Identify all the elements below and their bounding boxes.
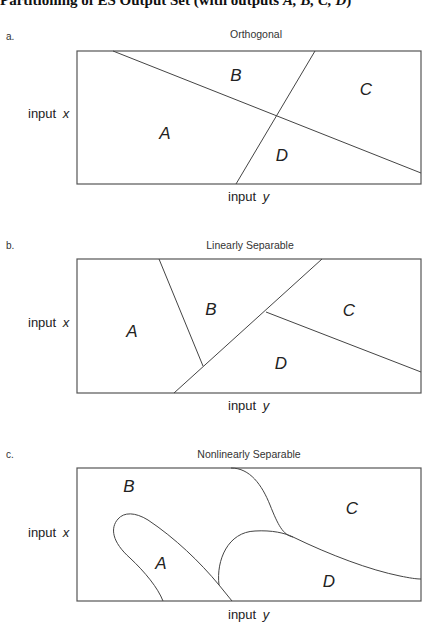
decision-boundary bbox=[174, 259, 322, 393]
partition-diagram: a.OrthogonalABCDinput xinput yb.Linearly… bbox=[0, 0, 428, 637]
region-label-c: C bbox=[360, 80, 373, 99]
region-label-b: B bbox=[230, 66, 241, 85]
panel-title: Orthogonal bbox=[230, 28, 282, 40]
panel-a: a.OrthogonalABCDinput xinput y bbox=[6, 28, 421, 204]
panel-b: b.Linearly SeparableABCDinput xinput y bbox=[6, 239, 421, 413]
decision-boundary bbox=[114, 514, 232, 601]
region-label-c: C bbox=[346, 499, 359, 518]
panel-title: Linearly Separable bbox=[206, 239, 294, 251]
panel-tag: a. bbox=[6, 31, 14, 42]
panel-tag: c. bbox=[6, 449, 14, 460]
axis-label-y: input y bbox=[228, 189, 271, 204]
panel-tag: b. bbox=[6, 240, 14, 251]
decision-boundary bbox=[113, 51, 421, 173]
axis-label-x: input x bbox=[28, 525, 70, 540]
axis-label-y: input y bbox=[228, 607, 271, 622]
decision-boundary bbox=[219, 531, 293, 585]
region-label-b: B bbox=[123, 477, 134, 496]
decision-boundary bbox=[266, 312, 421, 372]
region-label-a: A bbox=[125, 322, 137, 341]
region-label-a: A bbox=[158, 124, 170, 143]
region-label-d: D bbox=[276, 146, 288, 165]
axis-label-x: input x bbox=[28, 315, 70, 330]
axis-label-x: input x bbox=[28, 106, 70, 121]
decision-boundary bbox=[231, 468, 293, 537]
decision-boundary bbox=[293, 537, 421, 579]
panel-c: c.Nonlinearly SeparableABCDinput xinput … bbox=[6, 448, 421, 622]
panel-title: Nonlinearly Separable bbox=[197, 448, 300, 460]
region-label-a: A bbox=[154, 554, 166, 573]
region-label-c: C bbox=[343, 301, 356, 320]
axis-label-y: input y bbox=[228, 398, 271, 413]
region-label-d: D bbox=[323, 572, 335, 591]
region-label-b: B bbox=[205, 300, 216, 319]
decision-boundary bbox=[159, 259, 203, 366]
region-label-d: D bbox=[275, 354, 287, 373]
input-space-frame bbox=[77, 51, 421, 184]
